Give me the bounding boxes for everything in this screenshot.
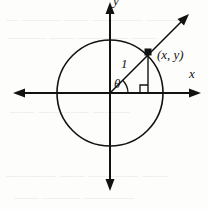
x-axis-label: x bbox=[189, 66, 195, 82]
point-coordinates-label: (x, y) bbox=[157, 47, 184, 63]
x-axis-left-arrowhead bbox=[13, 89, 25, 98]
y-axis bbox=[106, 2, 115, 191]
x-axis-right-arrowhead bbox=[189, 89, 201, 98]
y-axis-label: y bbox=[113, 0, 119, 9]
x-axis bbox=[13, 89, 201, 98]
unit-circle-figure: — ——— —— ———— ——— ——— —— ———— —— —— ————… bbox=[0, 0, 208, 209]
point-marker bbox=[145, 49, 152, 56]
y-axis-bottom-arrowhead bbox=[106, 179, 115, 191]
angle-theta-label: θ bbox=[114, 76, 120, 92]
radius-length-label: 1 bbox=[121, 56, 128, 72]
right-angle-marker bbox=[140, 85, 148, 93]
angle-arc bbox=[123, 80, 128, 93]
diagram-canvas bbox=[0, 0, 208, 209]
